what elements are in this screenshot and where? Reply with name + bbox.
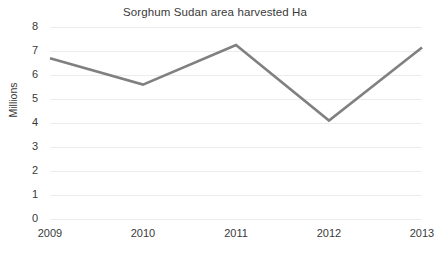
x-axis-tick-label: 2013 [392,227,439,239]
y-axis-tick-label: 5 [16,92,38,104]
y-axis-tick-label: 1 [16,188,38,200]
series-polyline [50,45,422,121]
x-axis-tick-label: 2009 [20,227,80,239]
y-axis-tick-label: 8 [16,20,38,32]
x-axis-tick-label: 2012 [299,227,359,239]
y-axis-tick-label: 4 [16,116,38,128]
chart-title: Sorghum Sudan area harvested Ha [0,6,430,18]
y-axis-tick-label: 2 [16,164,38,176]
x-axis-tick-label: 2010 [113,227,173,239]
y-axis-tick-label: 7 [16,44,38,56]
y-axis-tick-label: 6 [16,68,38,80]
y-axis-tick-label: 0 [16,212,38,224]
y-axis-tick-label: 3 [16,140,38,152]
x-axis-tick-label: 2011 [206,227,266,239]
series-line [50,27,422,219]
gridline [50,219,422,220]
plot-area: 012345678 20092010201120122013 [50,27,422,219]
